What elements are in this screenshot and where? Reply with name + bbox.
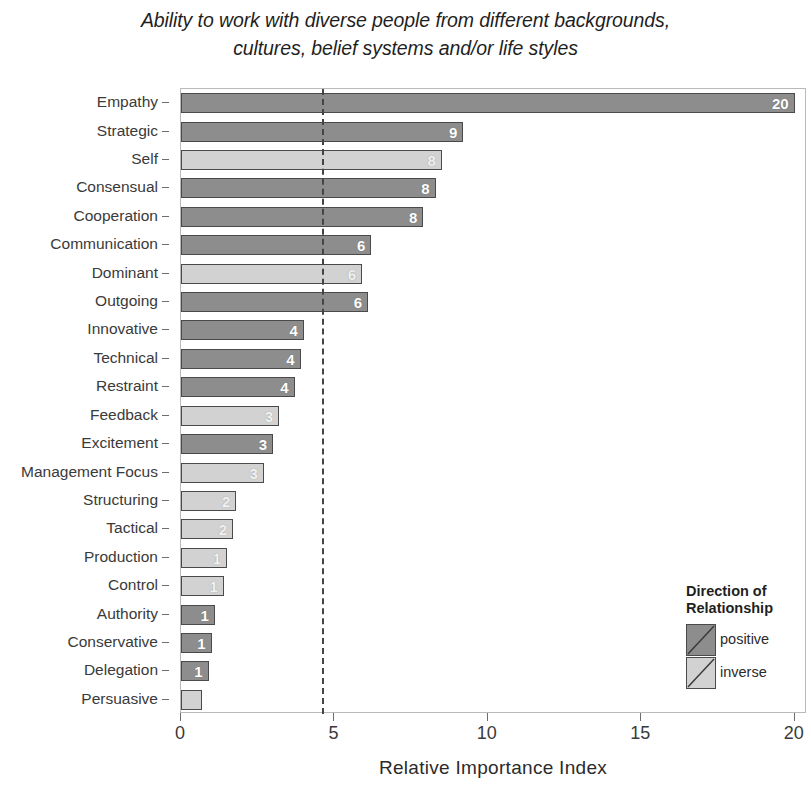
bar: 8 <box>181 150 442 170</box>
y-axis-label: Dominant <box>0 265 171 281</box>
reference-line <box>322 89 324 714</box>
bar: 20 <box>181 93 795 113</box>
legend-swatch-positive-icon <box>686 624 716 656</box>
legend-title-line-2: Relationship <box>686 600 811 617</box>
bar-value-label: 6 <box>348 266 356 281</box>
y-axis-tick <box>162 102 169 103</box>
bar-row: 4 <box>181 373 805 401</box>
bar-value-label: 1 <box>210 579 218 594</box>
bar-value-label: 3 <box>250 465 258 480</box>
y-axis-tick <box>162 159 169 160</box>
legend-swatch-inverse-icon <box>686 657 716 689</box>
bar-row: 20 <box>181 89 805 117</box>
y-axis-label: Production <box>0 549 171 565</box>
x-axis-tick-label: 10 <box>477 724 497 742</box>
bar-value-label: 6 <box>357 238 365 253</box>
legend: Direction of Relationship positive inver… <box>686 583 811 689</box>
y-axis-tick <box>162 273 169 274</box>
y-axis-label: Communication <box>0 237 171 253</box>
bar-row: 1 <box>181 544 805 572</box>
y-axis-tick <box>162 585 169 586</box>
chart-figure: EmpathyStrategicSelfConsensualCooperatio… <box>0 0 811 793</box>
y-axis-label: Innovative <box>0 322 171 338</box>
bar-value-label: 20 <box>772 96 789 111</box>
legend-item-positive: positive <box>686 623 811 656</box>
y-axis-label: Outgoing <box>0 293 171 309</box>
bar-value-label: 8 <box>427 153 435 168</box>
bar-value-label: 3 <box>265 408 273 423</box>
y-axis-tick <box>162 614 169 615</box>
y-axis-label: Strategic <box>0 123 171 139</box>
legend-label-inverse: inverse <box>720 665 767 680</box>
bar: 3 <box>181 434 273 454</box>
y-axis-label: Persuasive <box>0 691 171 707</box>
legend-item-inverse: inverse <box>686 656 811 689</box>
y-axis-tick <box>162 131 169 132</box>
legend-label-positive: positive <box>720 632 769 647</box>
y-axis-label: Feedback <box>0 407 171 423</box>
y-axis-label: Authority <box>0 606 171 622</box>
x-axis-title: Relative Importance Index <box>180 757 806 779</box>
bar-row: 8 <box>181 174 805 202</box>
x-axis-tick-label: 15 <box>630 724 650 742</box>
bar: 2 <box>181 491 236 511</box>
bar: 8 <box>181 178 436 198</box>
bar-row: 3 <box>181 458 805 486</box>
x-axis-tick <box>333 713 334 721</box>
bar-row: 8 <box>181 146 805 174</box>
bar-row: 4 <box>181 345 805 373</box>
y-axis-label: Conservative <box>0 634 171 650</box>
bar-row: 6 <box>181 259 805 287</box>
y-axis-tick <box>162 472 169 473</box>
bar-row <box>181 686 805 714</box>
bar: 3 <box>181 463 264 483</box>
y-axis-tick <box>162 699 169 700</box>
y-axis-tick <box>162 670 169 671</box>
y-axis-label: Consensual <box>0 180 171 196</box>
y-axis-tick <box>162 557 169 558</box>
y-axis-tick <box>162 642 169 643</box>
bar-value-label: 8 <box>409 209 417 224</box>
bar-value-label: 1 <box>197 635 205 650</box>
bar: 4 <box>181 349 301 369</box>
bar-value-label: 4 <box>280 380 288 395</box>
bar: 1 <box>181 633 212 653</box>
y-axis-tick <box>162 358 169 359</box>
bar: 6 <box>181 235 371 255</box>
bar-value-label: 6 <box>354 295 362 310</box>
bar: 6 <box>181 264 362 284</box>
bar: 4 <box>181 320 304 340</box>
x-axis-tick-label: 0 <box>175 724 185 742</box>
bar-value-label: 9 <box>449 124 457 139</box>
bar: 8 <box>181 207 423 227</box>
legend-title-line-1: Direction of <box>686 583 811 600</box>
x-axis-tick <box>640 713 641 721</box>
bar-value-label: 1 <box>213 550 221 565</box>
bar-value-label: 1 <box>200 607 208 622</box>
y-axis-tick <box>162 244 169 245</box>
y-axis-tick <box>162 329 169 330</box>
x-axis-tick <box>180 713 181 721</box>
y-axis-label: Cooperation <box>0 208 171 224</box>
y-axis-label: Delegation <box>0 663 171 679</box>
y-axis-tick <box>162 301 169 302</box>
y-axis-tick <box>162 443 169 444</box>
bar: 1 <box>181 661 209 681</box>
bar-row: 6 <box>181 288 805 316</box>
bar: 1 <box>181 576 224 596</box>
y-axis-category-labels: EmpathyStrategicSelfConsensualCooperatio… <box>0 0 171 793</box>
bar: 1 <box>181 605 215 625</box>
bar-row: 3 <box>181 402 805 430</box>
y-axis-label: Tactical <box>0 521 171 537</box>
bar: 4 <box>181 377 295 397</box>
y-axis-tick <box>162 216 169 217</box>
bar: 2 <box>181 519 233 539</box>
x-axis: 05101520 <box>180 713 806 714</box>
y-axis-label: Management Focus <box>0 464 171 480</box>
bar-row: 8 <box>181 203 805 231</box>
y-axis-label: Restraint <box>0 379 171 395</box>
bar: 3 <box>181 406 279 426</box>
y-axis-tick <box>162 528 169 529</box>
bar-row: 9 <box>181 117 805 145</box>
y-axis-label: Excitement <box>0 435 171 451</box>
